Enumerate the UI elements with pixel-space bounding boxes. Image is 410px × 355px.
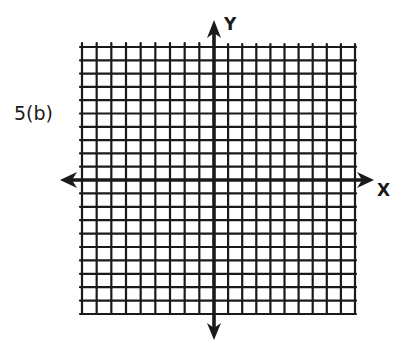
y-axis-label: Y (224, 14, 236, 34)
x-axis-label: X (377, 180, 390, 200)
coordinate-grid (0, 0, 410, 355)
problem-label: 5(b) (14, 102, 53, 124)
